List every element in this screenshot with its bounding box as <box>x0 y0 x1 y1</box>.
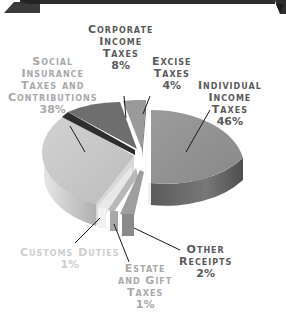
label-customs-duties: Customs Duties 1% <box>20 247 119 271</box>
label-value: 38% <box>8 104 97 116</box>
label-value: 1% <box>20 259 119 271</box>
label-value: 1% <box>118 299 172 311</box>
label-value: 8% <box>88 60 153 72</box>
label-value: 4% <box>152 80 191 92</box>
label-corporate-income-taxes: Corporate Income Taxes 8% <box>88 24 153 72</box>
label-excise-taxes: Excise Taxes 4% <box>152 56 191 92</box>
label-value: 46% <box>198 116 262 128</box>
label-social-insurance: Social Insurance Taxes and Contributions… <box>8 56 97 116</box>
label-individual-income-taxes: Individual Income Taxes 46% <box>198 80 262 128</box>
label-other-receipts: Other Receipts 2% <box>179 244 232 280</box>
label-estate-gift-taxes: Estate and Gift Taxes 1% <box>118 263 172 311</box>
label-value: 2% <box>179 268 232 280</box>
